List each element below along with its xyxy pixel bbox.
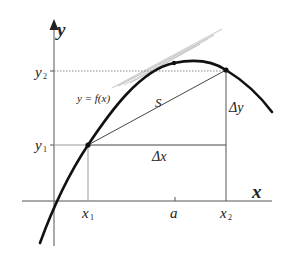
a-label: a [170,205,178,221]
y-axis-label: y [55,19,66,40]
y2-label: y 2 [33,64,47,81]
point-p1 [85,142,90,147]
svg-text:1: 1 [90,213,94,222]
y1-label: y 1 [33,137,47,154]
x1-label: x 1 [81,205,94,222]
svg-text:x: x [81,205,89,221]
tangent-line [112,29,222,88]
delta-y-label: Δy [228,100,244,115]
point-a [172,61,176,65]
svg-text:x: x [219,205,227,221]
svg-text:a: a [170,205,178,221]
svg-text:2: 2 [43,72,47,81]
point-p2 [223,67,228,72]
svg-text:y: y [33,137,42,153]
svg-text:2: 2 [228,213,232,222]
svg-text:y: y [33,64,42,80]
function-label: y = f(x) [76,92,110,105]
secant-label: S [155,95,162,110]
svg-text:1: 1 [43,145,47,154]
delta-x-label: Δx [151,149,167,164]
x2-label: x 2 [219,205,232,222]
x-axis-label: x [251,181,262,202]
mean-value-theorem-diagram: y x y = f(x) S Δy Δx y 2 y 1 x 1 a x 2 [0,0,286,256]
